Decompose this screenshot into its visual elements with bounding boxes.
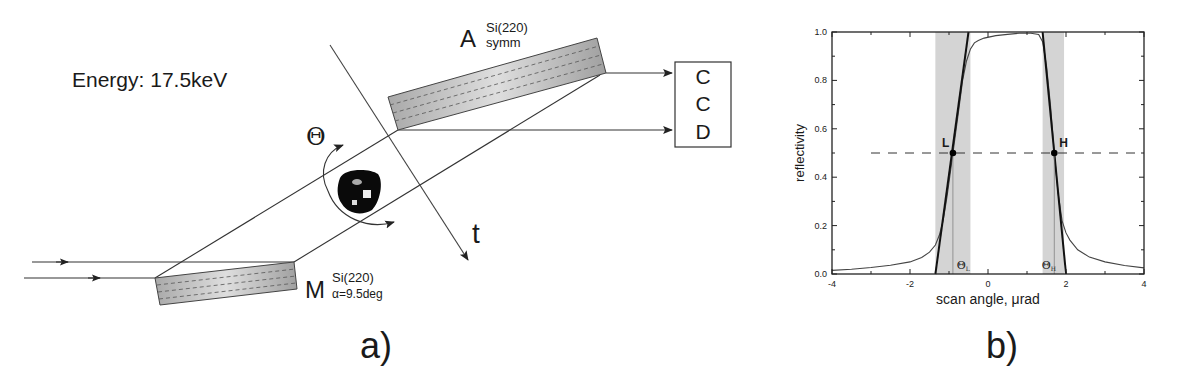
point-label-l: L <box>942 136 949 150</box>
x-axis-label: scan angle, μrad <box>936 291 1040 307</box>
monochromator-letter: M <box>305 276 325 303</box>
x-tick-label: 4 <box>1141 279 1146 289</box>
detector-label-line: D <box>695 120 710 143</box>
monochromator-asymmetry: α=9.5deg <box>332 287 383 301</box>
y-tick-label: 0.4 <box>814 172 827 182</box>
energy-label: Energy: 17.5keV <box>72 68 227 91</box>
y-tick-label: 0.2 <box>814 221 827 231</box>
x-tick-label: -2 <box>906 279 914 289</box>
analyzer-letter: A <box>460 25 476 52</box>
reflectivity-curve <box>832 33 1144 270</box>
x-tick-label: 2 <box>1063 279 1068 289</box>
analyzer-geometry: symm <box>486 35 521 50</box>
monochromator-reflection: Si(220) <box>332 270 374 285</box>
analyzer-crystal <box>388 38 606 130</box>
figure: Energy: 17.5keV M Si(220) α=9.5deg A <box>0 0 1178 382</box>
y-tick-label: 0.6 <box>814 124 827 134</box>
panel-a-caption: a) <box>360 325 392 366</box>
detector-label-line: C <box>695 65 710 88</box>
panel-a: Energy: 17.5keV M Si(220) α=9.5deg A <box>24 20 731 366</box>
data-point-l <box>950 150 957 157</box>
analyzer-reflection: Si(220) <box>486 20 528 35</box>
panel-b-caption: b) <box>986 325 1018 366</box>
rotation-symbol: Θ <box>306 123 326 151</box>
translation-label: t <box>472 218 480 249</box>
x-tick-label: 0 <box>985 279 990 289</box>
y-tick-label: 0.8 <box>814 75 827 85</box>
y-axis-label: reflectivity <box>792 124 807 182</box>
point-label-h: H <box>1059 136 1068 150</box>
detector-label-line: C <box>695 92 710 115</box>
x-tick-label: -4 <box>828 279 836 289</box>
panel-b-chart: -4-20240.00.20.40.60.81.0 scan angle, μr… <box>792 27 1147 307</box>
sample-icon <box>338 170 381 213</box>
y-tick-label: 1.0 <box>814 27 827 37</box>
monochromator-crystal <box>155 262 297 305</box>
data-point-h <box>1051 150 1058 157</box>
y-tick-label: 0.0 <box>814 269 827 279</box>
